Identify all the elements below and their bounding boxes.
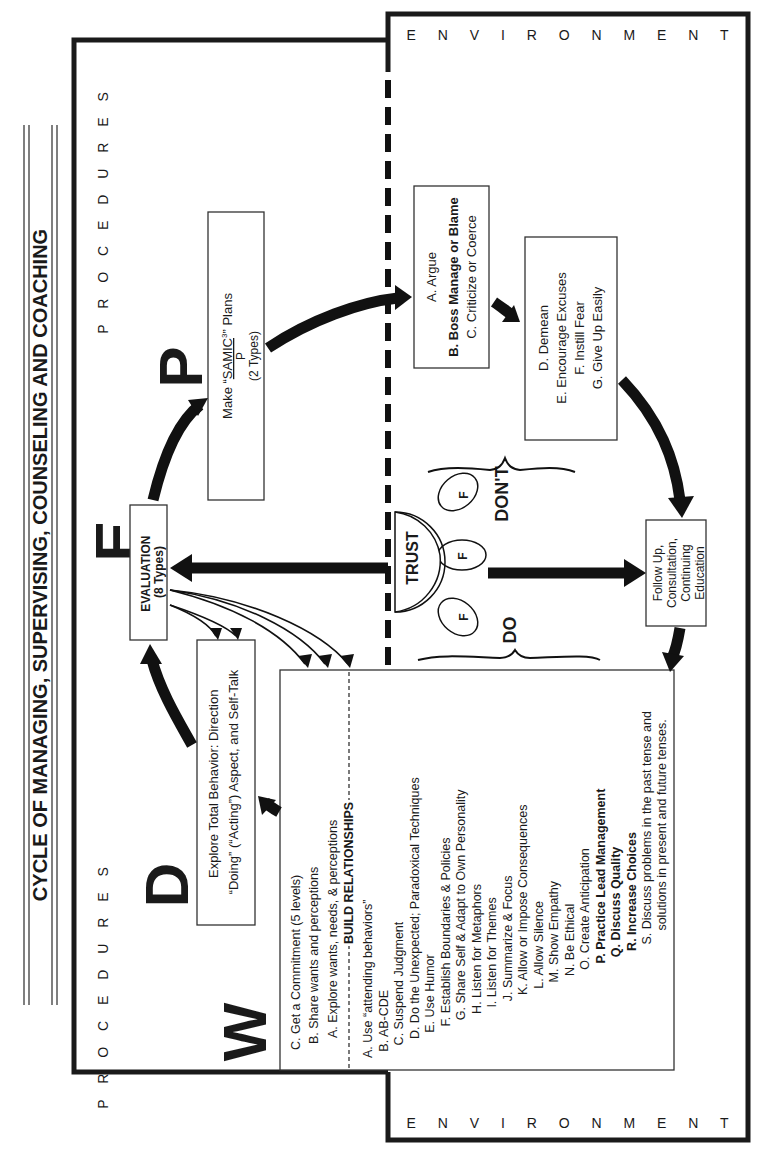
build-relationships-item: J. Summarize & Focus: [501, 876, 515, 1002]
follow-up-box: Follow Up, Consultation, Continuing Educ…: [646, 520, 707, 626]
svg-text:D. Demean: D. Demean: [536, 305, 551, 371]
svg-text:F: F: [457, 491, 471, 498]
build-relationships-item: Q. Discuss Quality: [609, 847, 623, 958]
follow-up-to-w-arrow: [672, 628, 680, 658]
build-relationships-item: R. Increase Choices: [625, 832, 639, 951]
svg-text:C. Get a Commitment (5 levels): C. Get a Commitment (5 levels): [289, 875, 303, 1050]
cycle-diagram: CYCLE OF MANAGING, SUPERVISING, COUNSELI…: [0, 0, 758, 1149]
do-brace: [418, 650, 600, 660]
svg-text:Follow Up,: Follow Up,: [651, 545, 665, 602]
evaluation-to-plans-arrow: [153, 405, 200, 500]
explore-to-evaluation-arrow: [152, 660, 192, 745]
build-relationships-item: H. Listen for Metaphors: [470, 884, 484, 1014]
svg-text:F: F: [456, 552, 470, 559]
plans-to-dont-arrow: [268, 298, 398, 348]
letter-p: P: [146, 346, 215, 387]
svg-text:C. Criticize or Coerce: C. Criticize or Coerce: [464, 215, 479, 339]
build-relationships-item: I. Listen for Themes: [485, 897, 499, 1007]
environment-label-bottom: E N V I R O N M E N T: [406, 1115, 737, 1131]
build-relationships-item: solutions in present and future tenses.: [655, 719, 669, 930]
svg-text:TRUST: TRUST: [404, 531, 421, 585]
explore-box: Explore Total Behavior: Direction “Doing…: [197, 640, 255, 925]
dont2-to-follow-up-arrow: [622, 380, 680, 500]
dont-label: DON'T: [492, 466, 512, 521]
letter-w: W: [210, 1002, 279, 1061]
build-relationships-item: S. Discuss problems in the past tense an…: [640, 711, 654, 945]
svg-text:B. Share wants and perceptions: B. Share wants and perceptions: [307, 867, 321, 1044]
environment-label-top-h: E N V I R O N M E N T: [406, 27, 737, 43]
plans-box: Make “SAMIC3” Plans P (2 Types): [208, 212, 264, 500]
build-relationships-item: K. Allow or Impose Consequences: [516, 805, 530, 995]
svg-text:F: F: [457, 613, 471, 620]
svg-text:Make “SAMIC3” Plans: Make “SAMIC3” Plans: [220, 293, 235, 419]
svg-text:F. Instill Fear: F. Instill Fear: [572, 300, 587, 374]
svg-text:E. Encourage Excuses: E. Encourage Excuses: [554, 272, 569, 404]
build-relationships-item: G. Share Self & Adapt to Own Personality: [454, 789, 468, 1020]
dont-box-1: A. Argue B. Boss Manage or Blame C. Crit…: [414, 186, 489, 368]
build-relationships-item: C. Suspend Judgment: [392, 921, 406, 1045]
letter-d: D: [132, 863, 201, 908]
svg-text:BUILD RELATIONSHIPS: BUILD RELATIONSHIPS: [342, 802, 356, 944]
svg-text:B. Boss Manage or Blame: B. Boss Manage or Blame: [446, 197, 461, 357]
do-label: DO: [500, 617, 520, 644]
build-relationships-item: P. Practice Lead Management: [594, 788, 608, 964]
evaluation-box: EVALUATION (8 Types): [130, 505, 167, 640]
svg-text:Continuing: Continuing: [679, 544, 693, 601]
build-relationships-item: F. Establish Boundaries & Policies: [439, 838, 453, 1027]
build-relationships-item: B. AB-CDE: [377, 990, 391, 1052]
title-block: CYCLE OF MANAGING, SUPERVISING, COUNSELI…: [24, 125, 57, 1005]
svg-text:A. Explore wants, needs, & per: A. Explore wants, needs, & perceptions: [326, 820, 340, 1038]
build-relationships-item: L. Allow Silence: [532, 901, 546, 989]
svg-text:Consultation,: Consultation,: [665, 538, 679, 608]
svg-text:Education: Education: [693, 546, 707, 599]
svg-text:G. Give Up Easily: G. Give Up Easily: [590, 286, 605, 389]
build-relationships-item: O. Create Anticipation: [578, 848, 592, 970]
procedures-label-bottom: P R O C E D U R E S: [95, 861, 111, 1109]
svg-text:P: P: [234, 352, 248, 360]
dont-box-2: D. Demean E. Encourage Excuses F. Instil…: [525, 237, 617, 440]
build-relationships-item: D. Do the Unexpected; Paradoxical Techni…: [408, 777, 422, 1039]
build-relationships-item: N. Be Ethical: [563, 904, 577, 976]
procedures-label-top: P R O C E D U R E S: [95, 86, 111, 334]
build-relationships-item: M. Show Empathy: [547, 880, 561, 982]
svg-text:(2 Types): (2 Types): [247, 331, 261, 381]
build-relationships-item: E. Use Humor: [423, 954, 437, 1033]
page-title: CYCLE OF MANAGING, SUPERVISING, COUNSELI…: [29, 229, 51, 901]
svg-text:A. Argue: A. Argue: [424, 252, 439, 302]
build-relationships-item: A. Use “attending behaviors”: [361, 900, 375, 1058]
trust-flower: TRUST F F F: [395, 466, 486, 644]
